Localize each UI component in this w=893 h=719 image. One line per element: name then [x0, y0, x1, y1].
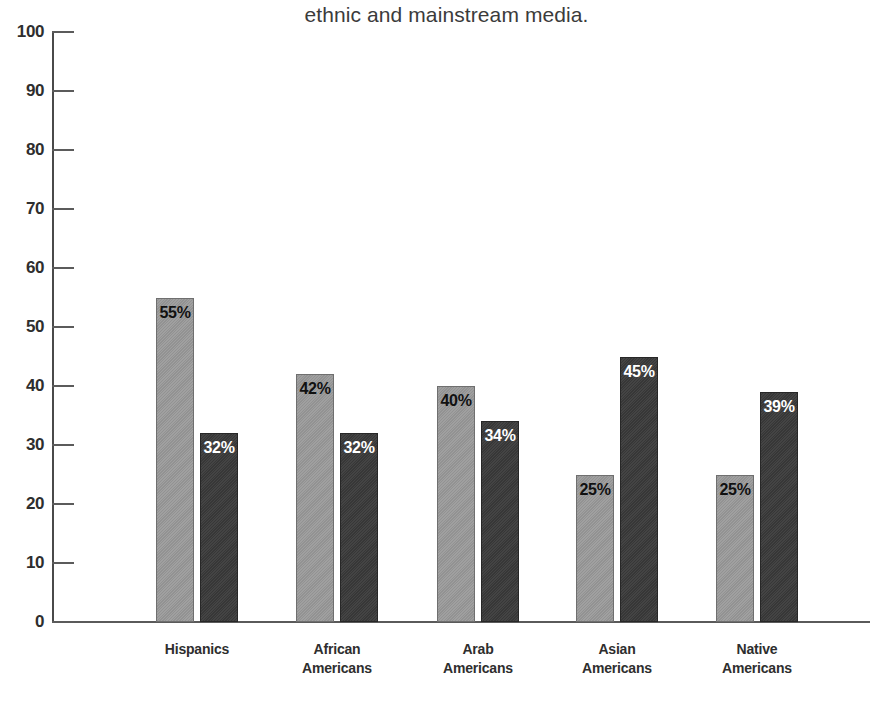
y-axis-tick	[52, 621, 74, 623]
bar-value-label: 40%	[438, 392, 474, 410]
y-axis-tick	[52, 267, 74, 269]
bar-series-light-1: 42%	[296, 374, 334, 622]
bar-series-dark-1: 32%	[340, 433, 378, 622]
category-label-line1: Hispanics	[165, 641, 229, 657]
category-label-line2: Americans	[687, 659, 827, 678]
y-axis-tick-label: 80	[0, 140, 44, 160]
bar-series-dark-0: 32%	[200, 433, 238, 622]
y-axis-tick	[52, 503, 74, 505]
bar-series-dark-4: 39%	[760, 392, 798, 622]
y-axis-tick	[52, 326, 74, 328]
category-label-0: Hispanics	[127, 640, 267, 659]
y-axis-tick	[52, 149, 74, 151]
y-axis-tick	[52, 208, 74, 210]
y-axis-tick-label: 90	[0, 81, 44, 101]
bar-chart: ethnic and mainstream media. 01020304050…	[0, 0, 893, 719]
category-label-1: AfricanAmericans	[267, 640, 407, 678]
y-axis-tick	[52, 31, 74, 33]
category-label-2: ArabAmericans	[408, 640, 548, 678]
bar-value-label: 42%	[297, 380, 333, 398]
bar-value-label: 32%	[341, 439, 377, 457]
bar-value-label: 25%	[717, 481, 753, 499]
y-axis-tick	[52, 385, 74, 387]
y-axis-tick	[52, 90, 74, 92]
bar-series-light-0: 55%	[156, 298, 194, 623]
bar-value-label: 45%	[621, 363, 657, 381]
y-axis-tick-label: 20	[0, 494, 44, 514]
category-label-line1: African	[314, 641, 361, 657]
y-axis-tick	[52, 444, 74, 446]
y-axis-tick	[52, 562, 74, 564]
y-axis-tick-label: 30	[0, 435, 44, 455]
category-label-line1: Asian	[598, 641, 635, 657]
y-axis-tick-label: 60	[0, 258, 44, 278]
bar-value-label: 39%	[761, 398, 797, 416]
bar-series-dark-2: 34%	[481, 421, 519, 622]
y-axis-tick-label: 70	[0, 199, 44, 219]
y-axis-tick-label: 50	[0, 317, 44, 337]
y-axis-tick-label: 10	[0, 553, 44, 573]
category-label-4: NativeAmericans	[687, 640, 827, 678]
y-axis-tick-label: 100	[0, 22, 44, 42]
bar-series-light-4: 25%	[716, 475, 754, 623]
bar-value-label: 55%	[157, 304, 193, 322]
category-label-line2: Americans	[267, 659, 407, 678]
y-axis-tick-label: 0	[0, 612, 44, 632]
y-axis-tick-label: 40	[0, 376, 44, 396]
bar-value-label: 34%	[482, 427, 518, 445]
category-label-line2: Americans	[408, 659, 548, 678]
bar-series-light-2: 40%	[437, 386, 475, 622]
bar-value-label: 25%	[577, 481, 613, 499]
plot-area: 0102030405060708090100 55%32%42%32%40%34…	[0, 0, 893, 719]
bar-series-dark-3: 45%	[620, 357, 658, 623]
bar-value-label: 32%	[201, 439, 237, 457]
category-label-3: AsianAmericans	[547, 640, 687, 678]
category-label-line1: Arab	[462, 641, 493, 657]
bar-series-light-3: 25%	[576, 475, 614, 623]
category-label-line1: Native	[737, 641, 778, 657]
category-label-line2: Americans	[547, 659, 687, 678]
